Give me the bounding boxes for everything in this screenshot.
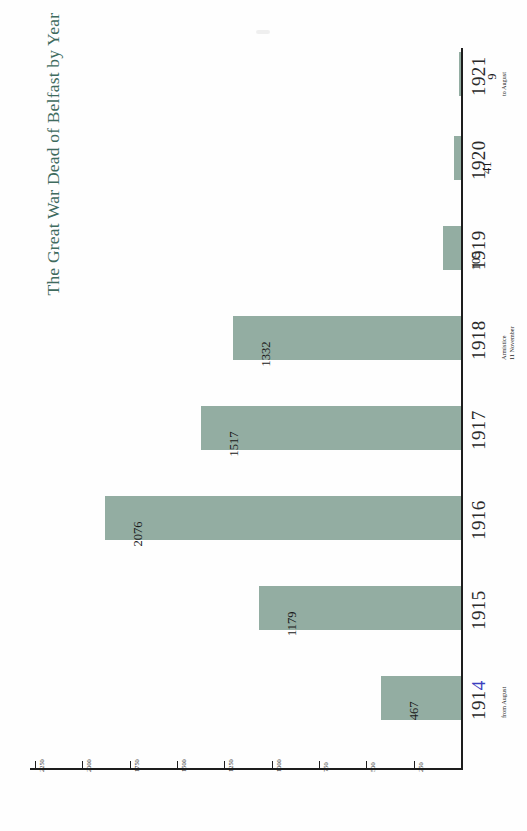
bar-1919 bbox=[443, 226, 461, 270]
category-label-1914-prefix: 191 bbox=[468, 690, 489, 720]
category-note-1921: to August bbox=[500, 26, 508, 96]
axis-tick-label-750: 750 bbox=[322, 762, 329, 772]
axis-tick-1250 bbox=[224, 761, 225, 769]
value-axis-line bbox=[30, 768, 463, 770]
bar-value-1914: 467 bbox=[407, 702, 422, 742]
bar-1920 bbox=[454, 136, 461, 180]
bar-value-1917: 1517 bbox=[227, 432, 242, 472]
category-note-1918-line1: Armistice bbox=[500, 290, 508, 360]
axis-tick-label-1250: 1250 bbox=[227, 759, 234, 772]
category-note-1918-line2: 11 November bbox=[508, 290, 516, 360]
axis-tick-500 bbox=[366, 761, 367, 769]
category-label-1914-highlight: 4 bbox=[468, 680, 489, 690]
axis-tick-1500 bbox=[177, 761, 178, 769]
axis-tick-label-2250: 2250 bbox=[38, 759, 45, 772]
category-label-1919: 1919 bbox=[468, 206, 490, 270]
axis-tick-750 bbox=[319, 761, 320, 769]
axis-tick-2250 bbox=[35, 761, 36, 769]
axis-tick-250 bbox=[414, 761, 415, 769]
chart-page: The Great War Dead of Belfast by Year 46… bbox=[0, 0, 527, 831]
category-label-1920: 1920 bbox=[468, 116, 490, 180]
axis-tick-label-250: 250 bbox=[417, 762, 424, 772]
category-label-1914: 1914 bbox=[468, 656, 490, 720]
axis-tick-label-500: 500 bbox=[369, 762, 376, 772]
category-label-1915: 1915 bbox=[468, 566, 490, 630]
bar-1921 bbox=[459, 52, 461, 96]
bar-1916 bbox=[105, 496, 461, 540]
page-title: The Great War Dead of Belfast by Year bbox=[43, 26, 64, 296]
bar-value-1918: 1332 bbox=[259, 342, 274, 382]
category-axis-line bbox=[461, 48, 463, 769]
axis-tick-label-1500: 1500 bbox=[180, 759, 187, 772]
chart-stage: The Great War Dead of Belfast by Year 46… bbox=[0, 0, 527, 831]
category-label-1921: 1921 bbox=[468, 32, 490, 96]
axis-tick-2000 bbox=[82, 761, 83, 769]
category-label-1916: 1916 bbox=[468, 476, 490, 540]
category-note-1914: from August bbox=[500, 648, 508, 718]
axis-tick-label-2000: 2000 bbox=[85, 759, 92, 772]
axis-tick-1750 bbox=[130, 761, 131, 769]
bar-value-1915: 1179 bbox=[285, 612, 300, 652]
bar-value-1916: 2076 bbox=[131, 522, 146, 562]
axis-tick-label-1000: 1000 bbox=[275, 759, 282, 772]
category-label-1917: 1917 bbox=[468, 386, 490, 450]
axis-tick-1000 bbox=[272, 761, 273, 769]
axis-tick-label-1750: 1750 bbox=[133, 759, 140, 772]
category-label-1918: 1918 bbox=[468, 296, 490, 360]
